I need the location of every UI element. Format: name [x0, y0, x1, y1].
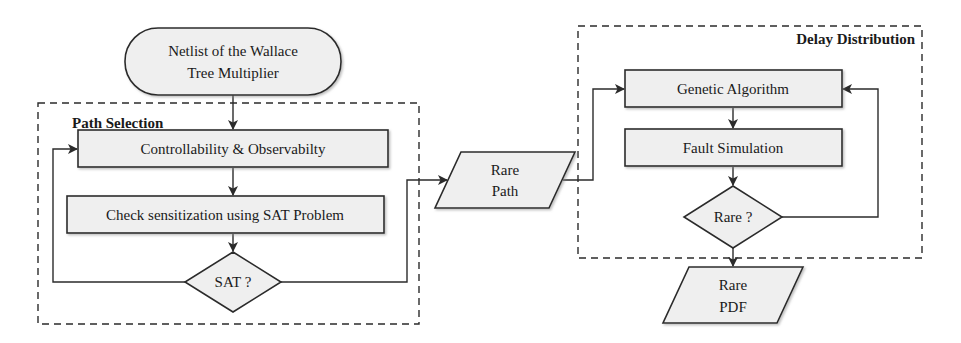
node-sat-decision: SAT ? [185, 252, 281, 312]
rare-pdf-label-line1: Rare [719, 277, 748, 293]
terminal-shape [125, 28, 341, 95]
netlist-label-line1: Netlist of the Wallace [168, 43, 298, 59]
flowchart-diagram: Path Selection Delay Distribution Netlis… [0, 0, 961, 343]
fault-simulation-label: Fault Simulation [683, 140, 784, 156]
node-rare-decision: Rare ? [684, 186, 782, 248]
node-check-sat: Check sensitization using SAT Problem [67, 196, 384, 233]
node-controllability: Controllability & Observabilty [78, 130, 388, 167]
genetic-algorithm-label: Genetic Algorithm [677, 81, 789, 97]
node-rare-pdf: Rare PDF [663, 267, 803, 323]
check-sat-label: Check sensitization using SAT Problem [106, 207, 344, 223]
node-rare-path: Rare Path [435, 152, 575, 208]
rare-pdf-label-line2: PDF [719, 299, 747, 315]
netlist-label-line2: Tree Multiplier [187, 65, 279, 81]
data-shape [435, 152, 575, 208]
rare-path-label-line2: Path [492, 183, 519, 199]
edge-rare-path-to-ga [563, 89, 624, 180]
rare-decision-label: Rare ? [714, 209, 753, 225]
controllability-label: Controllability & Observabilty [141, 141, 326, 157]
delay-distribution-title: Delay Distribution [796, 31, 915, 47]
rare-path-label-line1: Rare [491, 162, 520, 178]
node-netlist: Netlist of the Wallace Tree Multiplier [125, 28, 341, 95]
path-selection-title: Path Selection [72, 115, 164, 131]
node-genetic-algorithm: Genetic Algorithm [625, 70, 842, 107]
sat-decision-label: SAT ? [215, 274, 252, 290]
node-fault-simulation: Fault Simulation [625, 129, 842, 166]
